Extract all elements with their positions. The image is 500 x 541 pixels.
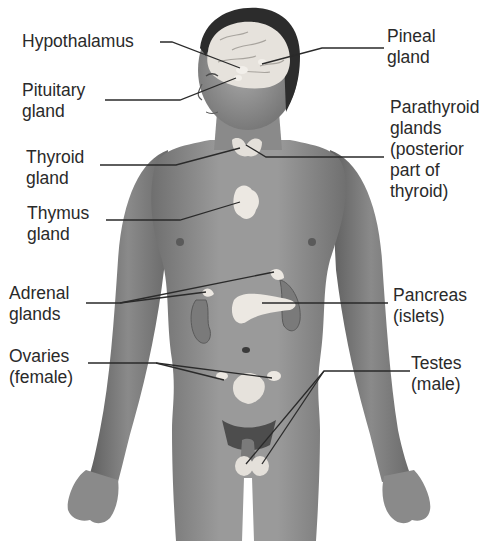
body-silhouette xyxy=(68,100,431,541)
pineal-gland xyxy=(258,59,266,65)
navel xyxy=(242,347,250,353)
leg-gap xyxy=(242,478,254,541)
label-hypothalamus: Hypothalamus xyxy=(22,31,134,52)
label-parathyroid: Parathyroid glands (posterior part of th… xyxy=(390,97,480,202)
label-pineal: Pineal gland xyxy=(387,26,436,68)
label-thyroid: Thyroid gland xyxy=(26,147,84,189)
left-nipple xyxy=(176,238,184,246)
left-hand xyxy=(68,470,119,523)
label-adrenal: Adrenal glands xyxy=(9,283,69,325)
right-nipple xyxy=(308,238,316,246)
brain xyxy=(207,22,290,89)
label-testes: Testes (male) xyxy=(411,353,462,395)
head xyxy=(198,8,300,130)
label-pituitary: Pituitary gland xyxy=(22,80,85,122)
right-hand xyxy=(382,470,430,523)
label-thymus: Thymus gland xyxy=(27,203,89,245)
right-testis xyxy=(251,456,269,476)
label-ovaries: Ovaries (female) xyxy=(9,346,73,388)
right-ovary xyxy=(267,371,281,381)
label-pancreas: Pancreas (islets) xyxy=(393,285,467,327)
